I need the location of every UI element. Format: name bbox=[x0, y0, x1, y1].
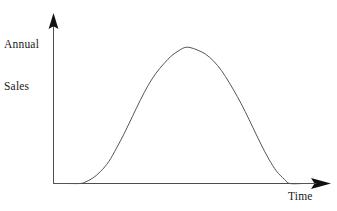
y-axis-label-line-2: Sales bbox=[4, 79, 39, 93]
x-axis-label: Time bbox=[288, 189, 313, 203]
life-cycle-curve-figure: Annual Sales Time bbox=[0, 0, 337, 211]
y-axis-label-line-1: Annual bbox=[4, 37, 39, 51]
sales-curve-line bbox=[54, 47, 317, 184]
y-axis-label: Annual Sales bbox=[4, 9, 39, 121]
chart-canvas bbox=[0, 0, 337, 211]
